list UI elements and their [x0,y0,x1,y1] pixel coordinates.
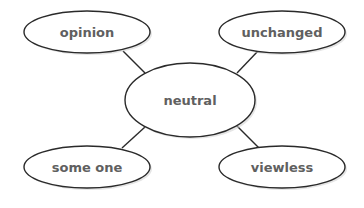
node-unchanged: unchanged [219,11,347,55]
word-web-diagram: opinion unchanged neutral some one viewl… [0,0,364,208]
connector-viewless [237,126,259,148]
node-opinion: opinion [24,11,152,55]
node-label: unchanged [242,25,323,40]
node-label: some one [52,160,123,175]
center-label: neutral [163,93,216,108]
node-label: opinion [60,25,115,40]
connector-unchanged [237,51,258,73]
connector-some-one [122,127,145,148]
connector-opinion [123,51,145,73]
node-label: viewless [251,160,314,175]
node-some-one: some one [24,146,152,190]
node-viewless: viewless [219,146,347,190]
